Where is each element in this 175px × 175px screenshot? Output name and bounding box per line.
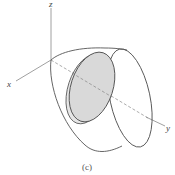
y-axis [146, 117, 165, 126]
z-axis-label: z [48, 0, 53, 9]
paraboloid-diagram: z x y (c) [0, 0, 175, 175]
x-axis [16, 60, 51, 81]
figure-caption: (c) [82, 162, 92, 172]
y-axis-label: y [165, 123, 170, 133]
x-axis-label: x [6, 79, 11, 89]
